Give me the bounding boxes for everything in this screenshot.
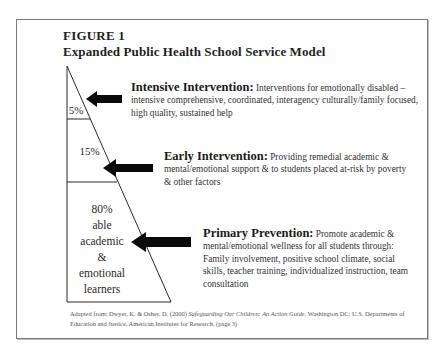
arrow-primary-icon — [131, 232, 191, 252]
credit-prefix: Adapted from: Dwyer, K. & Osher, D. (200… — [70, 310, 188, 317]
tier-80-line: able — [67, 217, 137, 233]
tier-80-line: learners — [67, 281, 137, 297]
source-credit: Adapted from: Dwyer, K. & Osher, D. (200… — [70, 309, 420, 329]
early-heading: Early Intervention: — [164, 149, 268, 163]
tier-80-line: 80% — [67, 201, 137, 217]
tier-80-line: emotional — [67, 265, 137, 281]
credit-book-title: Safeguarding Our Children: An Action Gui… — [188, 310, 306, 317]
tier-label-15: 15% — [67, 145, 112, 157]
early-intervention-block: Early Intervention: Providing remedial a… — [164, 150, 414, 188]
intensive-intervention-block: Intensive Intervention: Interventions fo… — [131, 81, 421, 119]
arrow-early-icon — [103, 159, 153, 177]
tier-80-line: academic — [67, 233, 137, 249]
intensive-heading: Intensive Intervention: — [131, 80, 254, 94]
tier-label-5: 5% — [66, 104, 86, 116]
tier-80-line: & — [67, 249, 137, 265]
tier-label-80: 80% able academic & emotional learners — [67, 201, 137, 297]
arrow-intensive-icon — [86, 91, 122, 107]
primary-heading: Primary Prevention: — [203, 226, 314, 240]
primary-prevention-block: Primary Prevention: Promote academic & m… — [203, 227, 418, 290]
